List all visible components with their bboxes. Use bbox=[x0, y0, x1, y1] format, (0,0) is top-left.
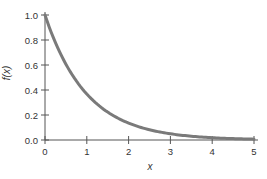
y-tick-label: 0.6 bbox=[25, 60, 38, 71]
y-tick-label: 1.0 bbox=[25, 10, 38, 21]
y-axis-label: f(x) bbox=[1, 66, 12, 80]
y-tick-label: 0.8 bbox=[25, 35, 38, 46]
x-tick-label: 2 bbox=[126, 146, 131, 157]
data-curve bbox=[45, 15, 254, 139]
x-tick-label: 0 bbox=[42, 146, 47, 157]
y-tick-label: 0.0 bbox=[25, 135, 38, 146]
x-tick-label: 4 bbox=[210, 146, 215, 157]
y-axis: 0.00.20.40.60.81.0 bbox=[25, 10, 49, 146]
y-tick-label: 0.2 bbox=[25, 110, 38, 121]
x-tick-label: 1 bbox=[84, 146, 89, 157]
x-tick-label: 3 bbox=[168, 146, 173, 157]
x-axis-label: x bbox=[147, 161, 154, 172]
line-chart: 0.00.20.40.60.81.0 012345 x f(x) bbox=[0, 0, 267, 179]
y-tick-label: 0.4 bbox=[25, 85, 38, 96]
x-tick-label: 5 bbox=[251, 146, 256, 157]
